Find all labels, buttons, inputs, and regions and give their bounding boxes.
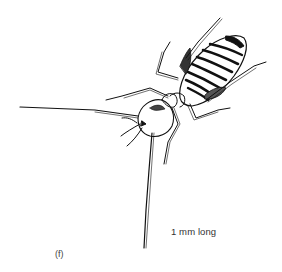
leg-mid-upper <box>158 42 178 78</box>
panel-label: (f) <box>55 249 64 259</box>
left-antenna <box>20 107 138 116</box>
leg-lower <box>164 108 178 164</box>
insect-figure: 1 mm long (f) <box>0 0 282 272</box>
leg-mid-right <box>190 104 230 118</box>
insect-drawing <box>0 0 282 272</box>
abdomen <box>180 36 247 106</box>
leg-front-upper <box>186 18 220 58</box>
scale-annotation: 1 mm long <box>171 226 216 237</box>
lower-antenna <box>144 133 152 248</box>
